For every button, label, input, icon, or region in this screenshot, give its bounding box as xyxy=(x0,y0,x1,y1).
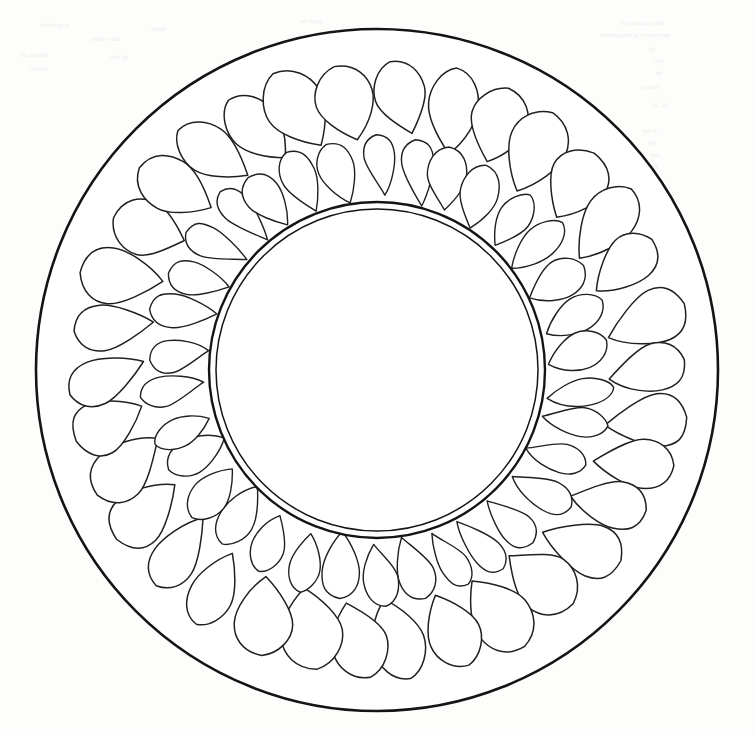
circular-egg-arrangement-figure xyxy=(0,0,755,734)
figure-root xyxy=(36,29,718,711)
inner-rim-inner-circle xyxy=(216,209,538,531)
scanned-page: the process ofnecessary arrangementofthe… xyxy=(0,0,755,734)
